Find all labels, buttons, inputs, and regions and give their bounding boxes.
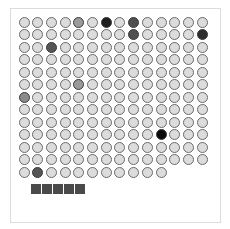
tray-piece[interactable] [75,184,85,194]
board-cell[interactable] [128,42,139,53]
board-cell[interactable] [183,42,194,53]
board-cell[interactable] [169,42,180,53]
board-cell[interactable] [73,92,84,103]
board-cell[interactable] [32,117,43,128]
board-cell[interactable] [156,92,167,103]
board-cell[interactable] [128,17,139,28]
board-cell[interactable] [156,29,167,40]
board-cell[interactable] [46,167,57,178]
board-cell[interactable] [46,154,57,165]
board-cell[interactable] [101,29,112,40]
board-cell[interactable] [73,67,84,78]
board-cell[interactable] [142,17,153,28]
board-cell[interactable] [46,17,57,28]
board-cell[interactable] [169,67,180,78]
board-cell[interactable] [19,104,30,115]
board-cell[interactable] [19,142,30,153]
board-cell[interactable] [156,104,167,115]
board-cell[interactable] [183,154,194,165]
board-cell[interactable] [73,142,84,153]
board-cell[interactable] [169,17,180,28]
board-cell[interactable] [197,117,208,128]
board-cell[interactable] [114,117,125,128]
board-cell[interactable] [128,92,139,103]
board-cell[interactable] [156,54,167,65]
board-cell[interactable] [169,92,180,103]
board-cell[interactable] [46,129,57,140]
board-cell[interactable] [73,167,84,178]
board-cell[interactable] [114,42,125,53]
board-cell[interactable] [197,104,208,115]
board-cell[interactable] [46,104,57,115]
board-cell[interactable] [142,42,153,53]
board-cell[interactable] [156,17,167,28]
board-cell[interactable] [114,167,125,178]
board-cell[interactable] [169,117,180,128]
board-cell[interactable] [183,54,194,65]
board-cell[interactable] [142,142,153,153]
board-cell[interactable] [128,67,139,78]
board-cell[interactable] [156,142,167,153]
board-cell[interactable] [156,129,167,140]
board-cell[interactable] [19,67,30,78]
board-cell[interactable] [101,92,112,103]
board-cell[interactable] [101,129,112,140]
board-cell[interactable] [156,167,167,178]
tray-piece[interactable] [31,184,41,194]
board-cell[interactable] [142,29,153,40]
board-cell[interactable] [156,79,167,90]
board-cell[interactable] [60,154,71,165]
board-cell[interactable] [101,167,112,178]
board-cell[interactable] [87,92,98,103]
board-cell[interactable] [87,17,98,28]
board-cell[interactable] [197,142,208,153]
board-cell[interactable] [19,129,30,140]
board-cell[interactable] [32,17,43,28]
tray-piece[interactable] [53,184,63,194]
board-cell[interactable] [183,104,194,115]
tray-piece[interactable] [64,184,74,194]
board-cell[interactable] [156,117,167,128]
board-cell[interactable] [183,67,194,78]
board-cell[interactable] [156,67,167,78]
board-cell[interactable] [19,79,30,90]
board-cell[interactable] [183,92,194,103]
board-cell[interactable] [197,79,208,90]
board-cell[interactable] [73,117,84,128]
board-cell[interactable] [87,67,98,78]
board-cell[interactable] [46,54,57,65]
board-cell[interactable] [197,17,208,28]
board-cell[interactable] [73,17,84,28]
board-cell[interactable] [60,92,71,103]
board-cell[interactable] [142,167,153,178]
board-cell[interactable] [32,42,43,53]
board-cell[interactable] [114,17,125,28]
board-cell[interactable] [142,104,153,115]
board-cell[interactable] [114,142,125,153]
board-cell[interactable] [128,167,139,178]
board-cell[interactable] [19,17,30,28]
board-cell[interactable] [60,42,71,53]
board-cell[interactable] [142,67,153,78]
board-cell[interactable] [156,42,167,53]
board-cell[interactable] [46,79,57,90]
board-cell[interactable] [60,104,71,115]
board-cell[interactable] [46,142,57,153]
board-cell[interactable] [60,54,71,65]
board-cell[interactable] [197,29,208,40]
board-cell[interactable] [183,29,194,40]
board-cell[interactable] [87,54,98,65]
board-cell[interactable] [142,54,153,65]
board-cell[interactable] [197,154,208,165]
board-cell[interactable] [60,117,71,128]
board-cell[interactable] [60,79,71,90]
board-cell[interactable] [142,129,153,140]
board-cell[interactable] [46,67,57,78]
board-cell[interactable] [101,54,112,65]
board-cell[interactable] [101,104,112,115]
board-cell[interactable] [60,142,71,153]
board-cell[interactable] [87,42,98,53]
board-cell[interactable] [142,79,153,90]
board-cell[interactable] [60,167,71,178]
board-cell[interactable] [197,67,208,78]
